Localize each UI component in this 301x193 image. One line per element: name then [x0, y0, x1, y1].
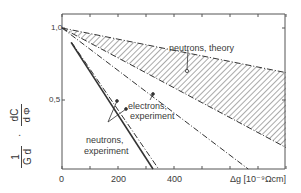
y-title-dphi: d Φ [22, 104, 32, 126]
label-electrons: electrons, [128, 101, 167, 111]
x-tick-label-0: 0 [59, 174, 64, 184]
y-title-dot: · [14, 134, 25, 137]
y-title-gd: G d [22, 146, 33, 168]
chart-canvas [0, 0, 301, 193]
y-title-1: 1 [10, 148, 21, 166]
y-tick-label-0-5: 0,5 [49, 95, 60, 105]
x-tick-label-200: 200 [111, 174, 126, 184]
y-title-dc: dC [9, 104, 20, 126]
label-neutrons-experiment: experiment [84, 146, 129, 156]
y-tick-label-1-0: 1,0 [51, 23, 62, 33]
x-axis-title: Δg [10⁻⁹Ωcm] [230, 174, 286, 184]
x-tick-label-400: 400 [167, 174, 182, 184]
label-neutrons-theory: neutrons, theory [169, 43, 234, 53]
label-neutrons: neutrons, [86, 135, 124, 145]
label-electrons-experiment: experiment [130, 111, 175, 121]
y-axis-title: 1 G d · dC d Φ [6, 30, 36, 170]
